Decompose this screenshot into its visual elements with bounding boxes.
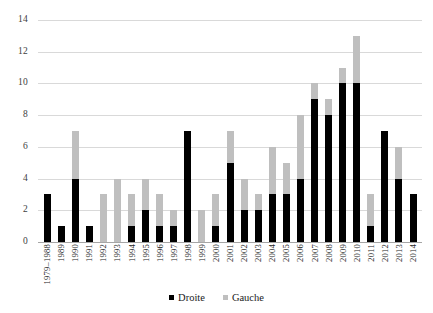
bar-slot (293, 20, 307, 242)
bar-slot (167, 20, 181, 242)
bar-slot (181, 20, 195, 242)
bar-segment-gauche (156, 194, 163, 226)
bar-segment-droite (170, 226, 177, 242)
bar-segment-droite (142, 210, 149, 242)
x-axis-tick-label: 1993 (113, 244, 122, 262)
bar-slot (406, 20, 420, 242)
x-axis-tick-label: 1992 (99, 244, 108, 262)
bar-segment-droite (311, 99, 318, 242)
bar-slot (350, 20, 364, 242)
bar-segment-gauche (72, 131, 79, 179)
x-axis-label-slot: 1998 (181, 244, 195, 290)
bar-stack (128, 194, 135, 242)
bar-stack (283, 163, 290, 242)
bar-segment-droite (212, 226, 219, 242)
bar-slot (392, 20, 406, 242)
bar-stack (410, 194, 417, 242)
x-axis-tick-label: 2008 (324, 244, 333, 262)
bar-segment-gauche (325, 99, 332, 115)
x-axis-label-slot: 2013 (392, 244, 406, 290)
x-axis-label-slot: 2003 (251, 244, 265, 290)
bar-stack (86, 226, 93, 242)
bar-segment-droite (283, 194, 290, 242)
x-axis-tick-label: 2011 (367, 244, 376, 262)
bar-segment-droite (86, 226, 93, 242)
bar-segment-gauche (297, 115, 304, 178)
bar-segment-gauche (114, 179, 121, 242)
bar-segment-droite (297, 179, 304, 242)
bar-stack (58, 226, 65, 242)
x-axis-label-slot: 2014 (406, 244, 420, 290)
x-axis-tick-label: 2013 (395, 244, 404, 262)
bar-slot (251, 20, 265, 242)
bar-segment-gauche (212, 194, 219, 226)
x-axis-label-slot: 2000 (209, 244, 223, 290)
bar-slot (68, 20, 82, 242)
bar-segment-gauche (255, 194, 262, 210)
x-axis-label-slot: 1989 (54, 244, 68, 290)
y-axis-tick-label: 8 (23, 110, 28, 120)
x-axis-label-slot: 2007 (307, 244, 321, 290)
bar-slot (378, 20, 392, 242)
y-axis-labels: 02468101214 (0, 20, 34, 242)
bar-stack (142, 179, 149, 242)
x-axis-tick-label: 2003 (254, 244, 263, 262)
bar-segment-droite (395, 179, 402, 242)
bar-slot (209, 20, 223, 242)
bar-segment-droite (72, 179, 79, 242)
bar-segment-droite (255, 210, 262, 242)
x-axis-label-slot: 2011 (364, 244, 378, 290)
bar-stack (269, 147, 276, 242)
plot-area (38, 20, 422, 242)
bar-stack (353, 36, 360, 242)
bar-slot (364, 20, 378, 242)
bar-segment-gauche (241, 179, 248, 211)
bar-slot (82, 20, 96, 242)
y-axis-tick-label: 14 (18, 15, 28, 25)
x-axis-label-slot: 1992 (96, 244, 110, 290)
x-axis-tick-label: 2004 (268, 244, 277, 262)
y-axis-tick-label: 10 (18, 79, 28, 89)
bar-stack (100, 194, 107, 242)
bar-stack (72, 131, 79, 242)
bar-segment-droite (381, 131, 388, 242)
x-axis-tick-label: 1994 (127, 244, 136, 262)
x-axis-tick-label: 2005 (282, 244, 291, 262)
bar-segment-droite (44, 194, 51, 242)
x-axis-label-slot: 2008 (322, 244, 336, 290)
x-axis-label-slot: 1999 (195, 244, 209, 290)
bar-segment-droite (367, 226, 374, 242)
bar-segment-gauche (269, 147, 276, 195)
bar-stack (297, 115, 304, 242)
bar-segment-gauche (311, 83, 318, 99)
x-axis-tick-label: 2002 (240, 244, 249, 262)
x-axis-label-slot: 1993 (110, 244, 124, 290)
bar-stack (325, 99, 332, 242)
bar-segment-gauche (128, 194, 135, 226)
x-axis-tick-label: 2001 (226, 244, 235, 262)
legend-swatch-icon (223, 295, 228, 300)
x-axis-tick-label: 1979–1988 (43, 244, 52, 284)
y-axis-tick-label: 0 (23, 237, 28, 247)
bar-segment-droite (156, 226, 163, 242)
bar-stack (255, 194, 262, 242)
bar-stack (241, 179, 248, 242)
x-axis-label-slot: 2004 (265, 244, 279, 290)
x-axis-label-slot: 1997 (167, 244, 181, 290)
bar-segment-droite (58, 226, 65, 242)
legend-item-droite[interactable]: Droite (169, 292, 205, 303)
x-axis-label-slot: 2009 (336, 244, 350, 290)
bar-segment-droite (410, 194, 417, 242)
bar-segment-gauche (170, 210, 177, 226)
bar-segment-gauche (198, 210, 205, 242)
bar-segment-droite (339, 83, 346, 242)
bar-segment-droite (241, 210, 248, 242)
x-axis-tick-label: 2007 (310, 244, 319, 262)
bar-slot (195, 20, 209, 242)
x-axis-tick-label: 1998 (184, 244, 193, 262)
legend-item-gauche[interactable]: Gauche (223, 292, 264, 303)
y-axis-tick-label: 12 (18, 47, 28, 57)
bar-slot (336, 20, 350, 242)
y-axis-tick-label: 4 (23, 174, 28, 184)
legend-label: Gauche (232, 292, 264, 303)
